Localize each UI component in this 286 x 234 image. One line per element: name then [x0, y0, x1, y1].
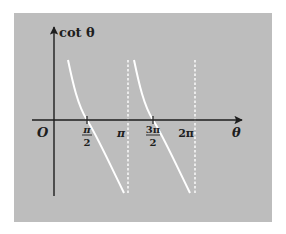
plot-panel [14, 13, 272, 222]
y-axis-label: cot θ [59, 25, 95, 40]
tick-label-pi: π [116, 127, 126, 140]
tick-label-pi-over-2-den: 2 [84, 137, 91, 148]
tick-label-3pi-over-2-den: 2 [150, 137, 157, 148]
cotangent-graph: cot θ θ O π 2 π 3π 2 2π [0, 0, 286, 234]
tick-label-pi-over-2-num: π [82, 124, 91, 135]
tick-label-2pi: 2π [178, 127, 194, 140]
tick-label-3pi-over-2-num: 3π [146, 124, 160, 135]
x-axis-label: θ [232, 125, 241, 140]
origin-label: O [37, 125, 49, 140]
